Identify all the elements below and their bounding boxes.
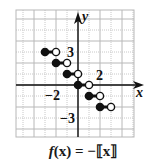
open-endpoint	[96, 92, 103, 99]
tick-label: 2	[96, 68, 103, 83]
step-function-chart: xy −232−3	[0, 0, 150, 142]
caption-rest: (x) = −⟦x⟧	[54, 143, 118, 159]
tick-label: −2	[45, 88, 60, 103]
open-endpoint	[74, 70, 81, 77]
y-axis-label: y	[80, 9, 89, 24]
open-endpoint	[52, 48, 59, 55]
closed-endpoint	[41, 48, 48, 55]
closed-endpoint	[96, 103, 103, 110]
open-endpoint	[107, 103, 114, 110]
closed-endpoint	[52, 59, 59, 66]
closed-endpoint	[74, 81, 81, 88]
function-caption: f(x) = −⟦x⟧	[0, 142, 150, 160]
closed-endpoint	[63, 70, 70, 77]
open-endpoint	[85, 81, 92, 88]
x-axis-label: x	[135, 85, 143, 100]
tick-label: 3	[67, 45, 74, 60]
open-endpoint	[63, 59, 70, 66]
closed-endpoint	[85, 92, 92, 99]
tick-label: −3	[60, 111, 75, 126]
